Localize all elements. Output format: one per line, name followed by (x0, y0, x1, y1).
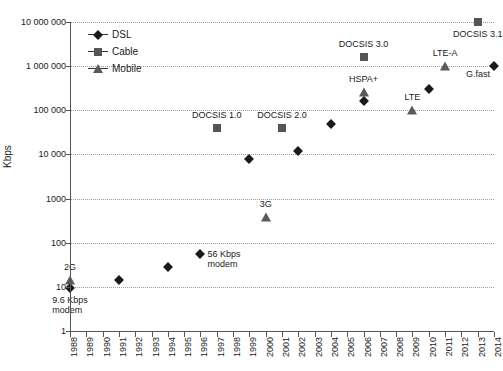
data-point-label: HSPA+ (349, 74, 378, 84)
y-tick-mark (66, 287, 71, 288)
data-point-square (278, 124, 286, 132)
x-tick-label: 1995 (183, 337, 193, 357)
x-tick-label: 1994 (167, 337, 177, 357)
data-point-diamond (163, 262, 173, 272)
x-tick-label: 2004 (330, 337, 340, 357)
y-tick-mark (66, 110, 71, 111)
x-tick-label: 2010 (428, 337, 438, 357)
data-point-label: LTE-A (433, 48, 458, 58)
legend-label: Cable (112, 46, 138, 57)
data-point-square (213, 124, 221, 132)
data-point-label: DOCSIS 2.0 (257, 110, 307, 120)
data-point-label: 3G (260, 199, 272, 209)
data-point-diamond (424, 84, 434, 94)
x-tick-label: 2002 (297, 337, 307, 357)
y-tick-label: 1000 (46, 194, 66, 204)
data-point-diamond (359, 96, 369, 106)
x-tick-label: 2013 (477, 337, 487, 357)
legend-triangle-icon (93, 64, 103, 73)
y-axis-line (70, 22, 71, 331)
x-tick-label: 1996 (199, 337, 209, 357)
y-tick-mark (66, 154, 71, 155)
data-point-triangle (359, 87, 369, 96)
data-point-diamond (114, 275, 124, 285)
y-axis-tick-labels: 10 000 0001 000 000100 00010 00010001001… (0, 22, 66, 331)
y-tick-mark (66, 199, 71, 200)
grid-line (70, 22, 494, 23)
data-point-label: G.fast (466, 69, 490, 79)
x-tick-label: 1992 (134, 337, 144, 357)
x-tick-label: 2012 (460, 337, 470, 357)
legend-diamond-icon (93, 30, 103, 40)
data-point-label: DOCSIS 3.0 (339, 39, 389, 49)
x-tick-label: 2001 (281, 337, 291, 357)
x-tick-label: 2000 (265, 337, 275, 357)
x-tick-label: 2008 (395, 337, 405, 357)
legend-item-cable[interactable]: Cable (88, 43, 141, 60)
y-tick-mark (66, 22, 71, 23)
x-tick-label: 2003 (314, 337, 324, 357)
y-tick-label: 10 000 000 (21, 17, 66, 27)
x-tick-label: 1999 (248, 337, 258, 357)
data-point-label: DOCSIS 1.0 (192, 110, 242, 120)
data-point-label: DOCSIS 3.1 (453, 29, 503, 39)
data-point-triangle (407, 106, 417, 115)
x-tick-label: 1993 (151, 337, 161, 357)
x-tick-label: 1997 (216, 337, 226, 357)
legend-label: DSL (112, 29, 131, 40)
legend-item-mobile[interactable]: Mobile (88, 60, 141, 77)
y-tick-label: 100 000 (33, 105, 66, 115)
x-tick-label: 2014 (493, 337, 503, 357)
legend-label: Mobile (112, 63, 141, 74)
x-tick-label: 1990 (102, 337, 112, 357)
y-tick-mark (66, 243, 71, 244)
legend-line (88, 34, 108, 35)
chart-legend: DSLCableMobile (88, 26, 141, 77)
legend-line (88, 51, 108, 52)
data-point-triangle (261, 212, 271, 221)
y-tick-label: 1 000 000 (26, 61, 66, 71)
grid-line (70, 199, 494, 200)
legend-line (88, 68, 108, 69)
data-point-label: 56 Kbps modem (207, 249, 240, 269)
x-tick-label: 2006 (363, 337, 373, 357)
data-point-square (474, 18, 482, 26)
data-point-diamond (196, 249, 206, 259)
x-axis-tick-labels: 1988198919901991199219931994199519961997… (70, 331, 494, 371)
data-point-label: LTE (405, 92, 421, 102)
data-point-diamond (326, 119, 336, 129)
x-tick-label: 2005 (346, 337, 356, 357)
y-tick-mark (66, 66, 71, 67)
x-tick-label: 1989 (85, 337, 95, 357)
x-tick-label: 2007 (379, 337, 389, 357)
legend-square-icon (94, 48, 102, 56)
data-point-square (360, 53, 368, 61)
x-tick-label: 1988 (69, 337, 79, 357)
x-tick-label: 1991 (118, 337, 128, 357)
grid-line (70, 154, 494, 155)
x-tick-label: 2011 (444, 337, 454, 356)
data-point-diamond (489, 61, 499, 71)
grid-line (70, 243, 494, 244)
y-tick-label: 100 (51, 238, 66, 248)
legend-item-dsl[interactable]: DSL (88, 26, 141, 43)
grid-line (70, 287, 494, 288)
y-tick-label: 10 000 (38, 149, 66, 159)
data-point-triangle (440, 62, 450, 71)
x-tick-label: 2009 (411, 337, 421, 357)
x-tick-label: 1998 (232, 337, 242, 357)
